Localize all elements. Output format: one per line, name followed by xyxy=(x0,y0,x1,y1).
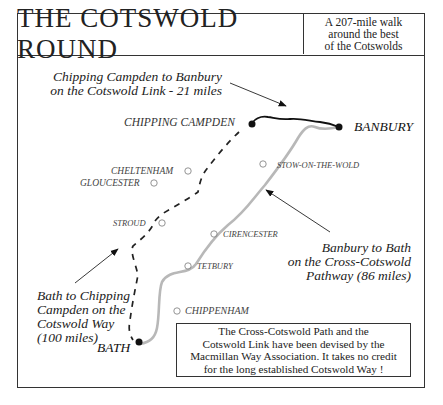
chipping-campden-label: CHIPPING CAMPDEN xyxy=(124,116,235,128)
label-line: Bath to Chipping xyxy=(37,289,130,303)
label-line: on the Cross-Cotswold xyxy=(278,255,411,269)
info-line: for the long established Cotswold Way ! xyxy=(177,363,410,376)
cheltenham-marker xyxy=(185,168,191,174)
info-line: Macmillan Way Association. It takes no c… xyxy=(177,350,410,363)
cirencester-marker xyxy=(211,231,217,237)
cotswold-link-route xyxy=(252,117,339,127)
bath-label: BATH xyxy=(97,340,130,356)
stroud-marker xyxy=(159,220,165,226)
cheltenham-label: CHELTENHAM xyxy=(111,166,173,176)
label-line: Campden on the xyxy=(37,303,130,317)
cross-cotswold-label: Banbury to Bath on the Cross-Cotswold Pa… xyxy=(278,241,411,283)
cotswold-way-arrow xyxy=(75,249,118,283)
label-line: Pathway (86 miles) xyxy=(278,269,411,283)
label-line: on the Cotswold Link - 21 miles xyxy=(32,84,222,98)
tetbury-marker xyxy=(185,263,191,269)
chippenham-marker xyxy=(174,308,180,314)
info-line: Cotswold Link have been devised by the xyxy=(177,338,410,351)
info-line: The Cross-Cotswold Path and the xyxy=(177,325,410,338)
cotswold-link-arrow xyxy=(230,83,286,106)
gloucester-marker xyxy=(151,180,157,186)
chippenham-label: CHIPPENHAM xyxy=(185,305,249,316)
info-box: The Cross-Cotswold Path and the Cotswold… xyxy=(176,323,411,377)
gloucester-label: GLOUCESTER xyxy=(80,178,140,188)
cross-cotswold-arrow xyxy=(266,190,330,232)
banbury-label: BANBURY xyxy=(354,119,413,135)
stow-label: STOW-ON-THE-WOLD xyxy=(277,160,359,170)
label-line: Chipping Campden to Banbury xyxy=(32,70,222,84)
chipping-campden-marker xyxy=(249,121,256,128)
stroud-label: STROUD xyxy=(113,218,146,228)
bath-marker xyxy=(136,339,143,346)
tetbury-label: TETBURY xyxy=(197,261,233,271)
label-line: Banbury to Bath xyxy=(278,241,411,255)
cotswold-link-label: Chipping Campden to Banbury on the Cotsw… xyxy=(32,70,222,98)
stow-marker xyxy=(260,161,266,167)
label-line: Cotswold Way xyxy=(37,317,130,331)
cotswold-way-label: Bath to Chipping Campden on the Cotswold… xyxy=(37,289,130,345)
banbury-marker xyxy=(336,124,343,131)
cirencester-label: CIRENCESTER xyxy=(223,229,278,239)
